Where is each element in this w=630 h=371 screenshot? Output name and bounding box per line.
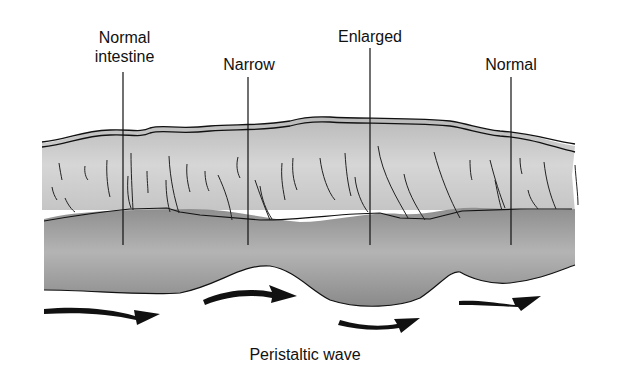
label-normal: Normal (472, 55, 550, 74)
arrow-icon (44, 308, 160, 325)
label-enlarged: Enlarged (325, 27, 415, 46)
label-narrow: Narrow (210, 55, 288, 74)
arrow-icon (338, 318, 420, 333)
intestine-wall (42, 117, 575, 213)
intestine-lumen (44, 208, 575, 307)
label-normal-intestine-line1: Normal (82, 28, 167, 47)
arrow-icon (203, 285, 297, 305)
label-normal-intestine-line2: intestine (82, 47, 167, 66)
arrow-icon (459, 296, 541, 311)
label-peristaltic-wave: Peristaltic wave (225, 345, 385, 364)
intestine-diagram: Normal intestine Narrow Enlarged Normal … (0, 0, 630, 371)
label-normal-intestine: Normal intestine (82, 28, 167, 66)
